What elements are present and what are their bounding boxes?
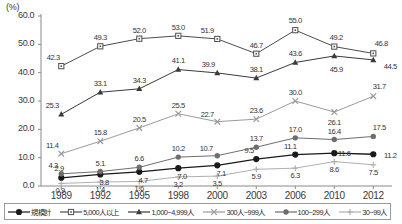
data-point-filled-circle: [175, 165, 181, 171]
legend-label: 5,000人以上: [83, 206, 119, 217]
legend-label: 30~99人: [362, 206, 387, 217]
data-point-open-square: [293, 28, 298, 33]
data-label: 20.5: [119, 115, 159, 124]
data-label: 7.0: [162, 172, 202, 181]
data-label: 0.9: [40, 186, 80, 195]
data-label: 25.3: [32, 101, 72, 110]
data-label: 25.5: [158, 101, 198, 110]
data-label: 38.1: [236, 65, 276, 74]
data-point-open-square: [98, 44, 103, 49]
data-point-filled-circle-gray: [215, 153, 220, 158]
filled-triangle-icon: [128, 207, 150, 217]
filled-circle-icon: [8, 207, 30, 217]
filled-circle-gray-icon: [275, 207, 297, 217]
data-label: 17.5: [359, 123, 399, 132]
data-point-plus: [347, 209, 353, 215]
data-point-filled-circle: [16, 208, 22, 214]
data-label: 33.1: [80, 79, 120, 88]
data-label: 4.7: [123, 176, 163, 185]
data-point-filled-circle-gray: [98, 169, 103, 174]
legend-label: 100~299人: [298, 206, 330, 217]
data-point-open-square: [332, 44, 337, 49]
chart-legend: 規模計5,000人以上1,000~4,999人300人~999人100~299人…: [4, 203, 391, 220]
legend-item-1[interactable]: 5,000人以上: [60, 206, 119, 217]
data-point-open-square: [69, 209, 74, 214]
legend-item-0[interactable]: 規模計: [8, 206, 51, 217]
data-label: 45.9: [316, 65, 356, 74]
data-label: 6.6: [119, 154, 159, 163]
legend-item-2[interactable]: 1,000~4,999人: [128, 206, 193, 217]
data-label: 13.7: [236, 134, 276, 143]
data-point-filled-circle-gray: [283, 209, 288, 214]
data-point-filled-circle: [292, 151, 298, 157]
data-label: 3.2: [158, 180, 198, 189]
data-point-cross-x: [58, 151, 64, 157]
data-label: 7.5: [353, 168, 393, 177]
legend-label: 300人~999人: [226, 206, 264, 217]
data-label: 23.6: [236, 106, 276, 115]
data-point-filled-triangle: [331, 53, 337, 59]
data-label: 22.7: [187, 110, 227, 119]
open-square-icon: [60, 207, 82, 217]
data-label: 44.5: [370, 62, 402, 71]
data-point-filled-circle: [214, 162, 220, 168]
data-point-filled-circle-gray: [371, 134, 376, 139]
data-point-filled-triangle: [136, 86, 142, 92]
data-label: 51.9: [187, 26, 227, 35]
legend-item-5[interactable]: 30~99人: [339, 206, 387, 217]
data-label: 49.3: [80, 33, 120, 42]
data-point-open-square: [137, 36, 142, 41]
data-label: 3.8: [84, 178, 124, 187]
data-label: 5.1: [80, 159, 120, 168]
legend-label: 1,000~4,999人: [151, 206, 193, 217]
data-point-filled-triangle: [58, 111, 64, 117]
data-point-filled-circle-gray: [332, 137, 337, 142]
data-point-open-square: [215, 36, 220, 41]
data-point-cross-x: [97, 138, 103, 144]
data-point-cross-x: [136, 125, 142, 131]
data-label: 4.3: [33, 161, 73, 170]
data-label: 6.3: [275, 171, 315, 180]
data-point-filled-triangle: [175, 66, 181, 72]
data-label: 15.8: [80, 128, 120, 137]
data-label: 7.1: [201, 169, 241, 178]
data-label: 31.7: [359, 82, 399, 91]
data-label: 11.4: [32, 141, 72, 150]
data-label: 39.9: [188, 60, 228, 69]
data-label: 17.0: [275, 125, 315, 134]
data-label: 34.3: [119, 76, 159, 85]
data-label: 10.7: [186, 144, 226, 153]
data-label: 3.5: [197, 179, 237, 188]
data-label: 42.3: [33, 53, 73, 62]
data-label: 11.2: [370, 151, 402, 160]
plus-icon: [339, 207, 361, 217]
cross-x-icon: [203, 207, 225, 217]
data-label: 46.7: [236, 41, 276, 50]
data-point-open-square: [254, 51, 259, 56]
data-label: 11.1: [270, 142, 310, 151]
legend-label: 規模計: [31, 206, 51, 217]
data-point-open-square: [176, 33, 181, 38]
data-label: 8.6: [314, 165, 354, 174]
data-label: 43.6: [275, 49, 315, 58]
data-label: 46.8: [361, 39, 401, 48]
data-point-cross-x: [331, 109, 337, 115]
data-point-open-square: [371, 51, 376, 56]
data-label: 49.2: [316, 33, 356, 42]
data-point-cross-x: [370, 93, 376, 99]
data-point-open-square: [59, 64, 64, 69]
data-point-filled-circle-gray: [176, 154, 181, 159]
data-label: 5.9: [236, 172, 276, 181]
data-label: 52.0: [119, 26, 159, 35]
data-point-cross-x: [292, 98, 298, 104]
data-label: 1.6: [119, 184, 159, 193]
data-label: 55.0: [275, 16, 315, 25]
data-point-filled-circle-gray: [137, 165, 142, 170]
legend-item-3[interactable]: 300人~999人: [203, 206, 264, 217]
data-point-filled-circle: [253, 156, 259, 162]
legend-item-4[interactable]: 100~299人: [275, 206, 330, 217]
data-label: 11.6: [324, 149, 364, 158]
data-label: 16.4: [314, 127, 354, 136]
data-label: 9.5: [229, 146, 269, 155]
